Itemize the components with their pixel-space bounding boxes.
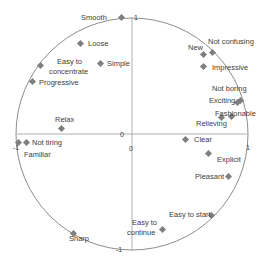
label-easy-to-start: Easy to start: [169, 210, 212, 219]
marker-impressive: [200, 63, 207, 70]
label-not-confusing: Not confusing: [208, 37, 254, 46]
label-relieving: Relieving: [196, 119, 227, 128]
marker-clear: [182, 136, 189, 143]
label-pleasant: Pleasant: [195, 172, 225, 181]
marker-smooth: [118, 14, 125, 21]
marker-simple: [97, 60, 104, 67]
marker-not-confusing: [209, 49, 216, 56]
y-tick-zero: 0: [129, 145, 133, 152]
label-exciting: Exciting: [209, 96, 235, 105]
label-fashionable: Fashionable: [215, 109, 256, 118]
label-clear: Clear: [194, 135, 212, 144]
label-new: New: [188, 43, 204, 52]
x-tick-pos: 1: [246, 144, 250, 151]
label-explicit: Explicit: [217, 155, 242, 164]
correspondence-circle-chart: 0 0 -1 1 -1 1 Smooth Loose Easy to conce…: [0, 0, 267, 267]
label-sharp: Sharp: [69, 234, 89, 243]
label-loose: Loose: [88, 39, 108, 48]
label-impressive: Impressive: [212, 63, 248, 72]
marker-new: [200, 51, 207, 58]
y-tick-pos: 1: [134, 14, 138, 21]
marker-relax: [58, 125, 65, 132]
label-not-boring: Not boring: [212, 84, 247, 93]
marker-pleasant: [225, 173, 232, 180]
label-simple: Simple: [107, 59, 130, 68]
marker-easy-to-concentrate: [37, 62, 44, 69]
label-progressive: Progressive: [39, 78, 79, 87]
label-not-tiring: Not tiring: [32, 138, 62, 147]
y-tick-neg: -1: [116, 246, 122, 253]
marker-explicit: [205, 150, 212, 157]
label-easy-to: Easy to: [57, 57, 82, 66]
chart-svg: 0 0 -1 1 -1 1 Smooth Loose Easy to conce…: [0, 0, 267, 267]
marker-loose: [77, 40, 84, 47]
marker-not-tiring: [23, 139, 30, 146]
label-relax: Relax: [55, 115, 74, 124]
marker-easy-to-continue: [159, 226, 166, 233]
label-continue: continue: [127, 228, 155, 237]
label-concentrate: concentrate: [49, 67, 88, 76]
label-smooth: Smooth: [81, 13, 107, 22]
x-tick-zero: 0: [120, 131, 124, 138]
label-familiar: Familiar: [24, 150, 51, 159]
label-easy-to-2: Easy to: [132, 218, 157, 227]
